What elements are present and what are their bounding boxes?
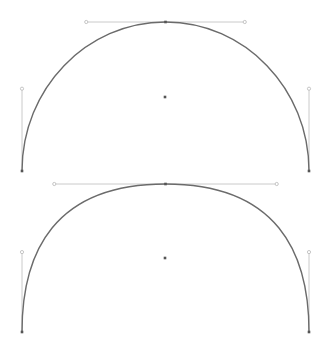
center-point-marker (164, 257, 167, 260)
right-handle-knob[interactable] (307, 250, 310, 253)
top-right-handle-knob[interactable] (243, 20, 246, 23)
right-anchor-point[interactable] (308, 170, 311, 173)
left-handle-knob[interactable] (20, 250, 23, 253)
top-left-handle-knob[interactable] (53, 182, 56, 185)
center-point-marker (164, 96, 167, 99)
right-handle-knob[interactable] (307, 87, 310, 90)
squircle-arch-group (20, 182, 310, 333)
left-anchor-point[interactable] (21, 331, 24, 334)
bezier-diagram-canvas (0, 0, 330, 349)
top-right-handle-knob[interactable] (275, 182, 278, 185)
right-anchor-point[interactable] (308, 331, 311, 334)
top-left-handle-knob[interactable] (85, 20, 88, 23)
circular-arch-group (20, 20, 310, 172)
left-handle-knob[interactable] (20, 87, 23, 90)
top-anchor-point[interactable] (164, 21, 167, 24)
left-anchor-point[interactable] (21, 170, 24, 173)
top-anchor-point[interactable] (164, 183, 167, 186)
